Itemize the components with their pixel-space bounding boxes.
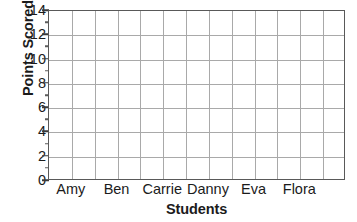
x-tick-label: Ben: [104, 182, 130, 198]
x-axis-title: Students: [48, 201, 345, 217]
x-axis-tick-labels: AmyBenCarrieDannyEvaFlora: [48, 182, 345, 202]
plot-area: [48, 10, 345, 180]
horizontal-gridline: [49, 60, 344, 61]
horizontal-gridline: [49, 132, 344, 133]
x-tick-label: Eva: [241, 182, 266, 198]
x-tick-label: Danny: [187, 182, 229, 198]
horizontal-gridline: [49, 108, 344, 109]
x-tick-label: Amy: [56, 182, 85, 198]
chart-figure: Points Scored 02468101214 AmyBenCarrieDa…: [0, 0, 357, 222]
horizontal-gridline: [49, 84, 344, 85]
x-tick-label: Flora: [283, 182, 316, 198]
horizontal-gridline: [49, 35, 344, 36]
x-tick-label: Carrie: [142, 182, 181, 198]
horizontal-gridline: [49, 157, 344, 158]
